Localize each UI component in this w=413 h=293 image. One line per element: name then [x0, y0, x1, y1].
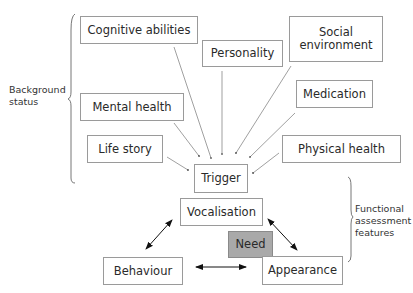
node-label: Physical health: [298, 143, 385, 156]
node-behaviour: Behaviour: [103, 257, 183, 285]
background-label-line2: status: [9, 96, 66, 108]
node-label: Personality: [211, 47, 274, 60]
node-life-story: Life story: [87, 135, 163, 163]
node-label: Appearance: [268, 264, 337, 277]
node-medication: Medication: [296, 80, 373, 108]
node-label: Life story: [98, 143, 151, 156]
node-label: Behaviour: [114, 265, 172, 278]
node-appearance: Appearance: [262, 256, 343, 285]
node-need: Need: [228, 231, 273, 258]
background-label-line1: Background: [9, 84, 66, 96]
node-label: Mental health: [92, 101, 171, 114]
node-vocalisation: Vocalisation: [180, 198, 263, 226]
node-trigger: Trigger: [194, 164, 248, 193]
node-label: Need: [235, 238, 265, 251]
background-status-label: Background status: [9, 84, 66, 108]
node-social-environment: Social environment: [289, 16, 383, 62]
functional-label-line3: features: [355, 227, 411, 239]
node-cognitive-abilities: Cognitive abilities: [80, 16, 198, 44]
node-physical-health: Physical health: [282, 135, 401, 163]
functional-label-line2: assessment: [355, 215, 411, 227]
node-mental-health: Mental health: [80, 93, 184, 121]
functional-label-line1: Functional: [355, 203, 411, 215]
node-label-line2: environment: [299, 39, 372, 52]
node-label: Vocalisation: [187, 206, 256, 219]
node-personality: Personality: [202, 40, 283, 67]
node-label: Cognitive abilities: [88, 24, 191, 37]
node-label: Trigger: [201, 172, 241, 185]
background-bracket: [68, 14, 75, 183]
node-label: Medication: [303, 88, 366, 101]
functional-assessment-label: Functional assessment features: [355, 203, 411, 239]
functional-bracket: [348, 177, 353, 262]
